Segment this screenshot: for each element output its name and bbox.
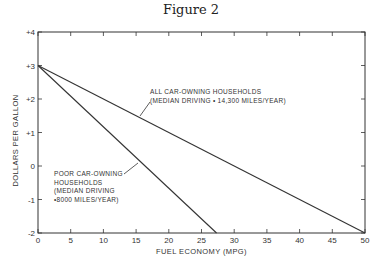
x-tick-label: 15 [132, 236, 141, 245]
x-tick-label: 45 [328, 236, 337, 245]
x-tick-label: 5 [68, 236, 73, 245]
x-tick-label: 10 [99, 236, 108, 245]
y-tick-label: +3 [26, 62, 36, 71]
y-tick-label: -1 [28, 196, 36, 205]
all-households-label: ALL CAR-OWNING HOUSEHOLDS (MEDIAN DRIVIN… [150, 88, 286, 105]
x-tick-label: 30 [230, 236, 239, 245]
all-households-pointer [140, 102, 150, 116]
y-tick-label: -2 [28, 229, 36, 238]
x-tick-label: 0 [36, 236, 41, 245]
x-tick-label: 35 [262, 236, 271, 245]
x-tick-label: 20 [164, 236, 173, 245]
y-tick-label: +4 [26, 28, 36, 37]
x-tick-label: 40 [295, 236, 304, 245]
poor-households-label: POOR CAR-OWNING HOUSEHOLDS (MEDIAN DRIVI… [54, 170, 123, 204]
y-tick-label: +1 [26, 129, 36, 138]
y-axis-label: DOLLARS PER GALLON [11, 94, 20, 186]
poor-households-pointer [124, 163, 138, 174]
y-tick-label: +2 [26, 95, 36, 104]
x-axis-label: FUEL ECONOMY (MPG) [156, 247, 247, 256]
y-tick-label: 0 [31, 162, 36, 171]
x-tick-label: 50 [361, 236, 370, 245]
x-tick-label: 25 [197, 236, 206, 245]
line-chart: 05101520253035404550-2-10+1+2+3+4FUEL EC… [0, 0, 382, 260]
